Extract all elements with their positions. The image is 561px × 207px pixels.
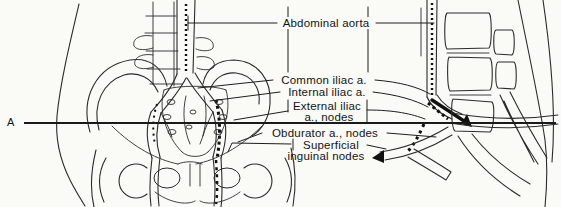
- femoral-arteries: [150, 157, 222, 207]
- pelvic-brim: [112, 126, 262, 164]
- back-contour: [518, 0, 553, 207]
- transverse-processes-right: [196, 38, 214, 70]
- figure-line-art: [0, 0, 561, 207]
- lateral-lumbosacral-view: [372, 0, 558, 207]
- sacrum-outline: [162, 86, 228, 156]
- abdominal-aorta-frontal: [177, 0, 195, 74]
- frontal-pelvis-view: [57, 0, 295, 207]
- iliac-wing-left: [87, 60, 167, 132]
- external-iliac-node-cluster: [408, 124, 424, 151]
- obturator-foramina: [154, 168, 240, 188]
- sacral-foramina: [163, 100, 227, 135]
- inguinal-node-chain: [216, 160, 217, 204]
- label-abdominal-aorta: Abdominal aorta: [281, 17, 372, 29]
- sacral-curve: [458, 134, 530, 196]
- label-internal-iliac: Internal iliac a.: [288, 87, 366, 97]
- vertebral-body-1: [445, 13, 492, 49]
- label-superficial-line1: Superficial: [303, 140, 359, 150]
- label-external-iliac-line1: External iliac: [293, 101, 361, 111]
- label-external-iliac-line2: a., nodes: [304, 112, 353, 122]
- flank-contour: [57, 4, 85, 206]
- disc-lines: [447, 53, 491, 95]
- femoral-vessel-band: [408, 149, 451, 180]
- inguinal-vessel-band: [380, 127, 452, 160]
- femoral-head-left: [92, 150, 147, 207]
- inguinal-arrowhead: [372, 150, 384, 163]
- label-obdurator: Obdurator a., nodes: [272, 128, 378, 138]
- section-marker-a: A: [7, 116, 14, 128]
- vertebral-body-2: [448, 57, 493, 91]
- anatomy-figure: A Abdominal aorta Common iliac a. Intern…: [0, 0, 561, 207]
- spinous-processes: [494, 30, 517, 89]
- label-common-iliac: Common iliac a.: [281, 75, 366, 85]
- label-superficial-line2: inguinal nodes: [288, 151, 365, 161]
- transverse-processes-left: [134, 36, 154, 69]
